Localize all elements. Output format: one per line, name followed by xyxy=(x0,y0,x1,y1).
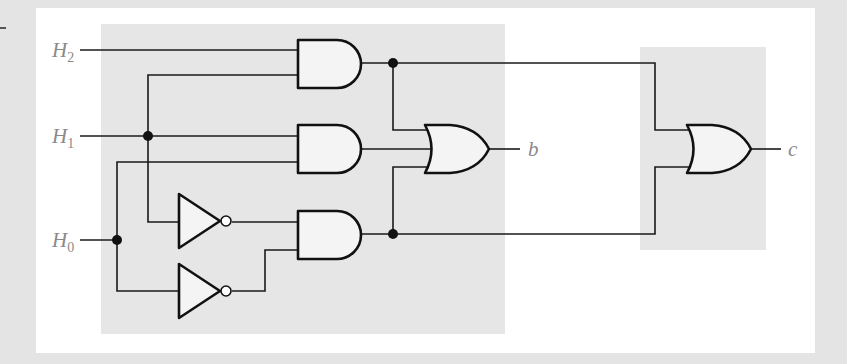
and-gate-2 xyxy=(298,125,361,173)
junction-and3 xyxy=(388,229,398,239)
input-label-h1: H1 xyxy=(52,126,74,151)
junction-h0 xyxy=(112,235,122,245)
output-label-c: c xyxy=(788,139,797,160)
label-base: H xyxy=(52,38,67,62)
label-base: H xyxy=(52,228,67,252)
label-sub: 2 xyxy=(67,50,74,65)
input-label-h0: H0 xyxy=(52,230,74,255)
circuit-diagram xyxy=(0,0,847,364)
and-gate-3 xyxy=(298,211,361,259)
not-gate-1-bubble xyxy=(221,216,231,226)
junction-and1 xyxy=(388,58,398,68)
output-label-b: b xyxy=(528,139,539,160)
label-sub: 1 xyxy=(67,136,74,151)
label-base: H xyxy=(52,124,67,148)
input-label-h2: H2 xyxy=(52,40,74,65)
label-sub: 0 xyxy=(67,240,74,255)
and-gate-1 xyxy=(298,40,361,88)
junction-h1 xyxy=(143,131,153,141)
not-gate-2-bubble xyxy=(221,286,231,296)
